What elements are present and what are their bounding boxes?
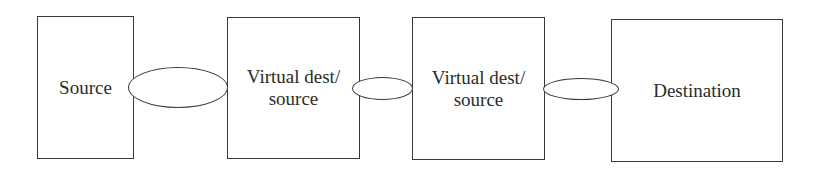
virtual-dest-source-node-1: Virtual dest/ source: [227, 17, 360, 159]
virtual-node-2-label-line2: source: [432, 89, 525, 111]
virtual-node-1-label-line1: Virtual dest/: [247, 66, 340, 88]
source-node: Source: [37, 16, 134, 159]
link-ellipse-source-to-virtual-1: [128, 67, 228, 108]
source-label: Source: [59, 77, 112, 99]
link-ellipse-virtual-1-to-virtual-2: [352, 77, 413, 100]
destination-label: Destination: [653, 80, 741, 102]
link-ellipse-virtual-2-to-destination: [543, 78, 619, 100]
destination-node: Destination: [611, 19, 783, 162]
diagram-canvas: Source Virtual dest/ source Virtual dest…: [0, 0, 816, 172]
virtual-node-1-label-line2: source: [247, 88, 340, 110]
virtual-node-2-label: Virtual dest/ source: [432, 67, 525, 111]
virtual-node-2-label-line1: Virtual dest/: [432, 67, 525, 89]
virtual-dest-source-node-2: Virtual dest/ source: [412, 17, 545, 160]
virtual-node-1-label: Virtual dest/ source: [247, 66, 340, 110]
